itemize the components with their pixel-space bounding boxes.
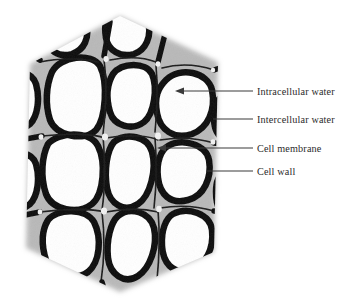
label-cell-wall: Cell wall (257, 166, 295, 177)
label-intracellular-water: Intracellular water (257, 86, 335, 97)
label-intercellular-water: Intercellular water (257, 114, 335, 125)
label-cell-membrane: Cell membrane (257, 143, 322, 154)
cell-structure-figure: Intracellular water Intercellular water … (0, 0, 340, 299)
